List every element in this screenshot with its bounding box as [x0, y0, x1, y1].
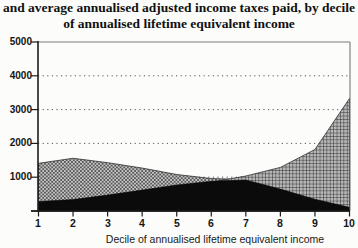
x-tick-label-3: 3 — [96, 217, 120, 229]
x-tick-label-4: 4 — [130, 217, 154, 229]
x-tick-label-2: 2 — [61, 217, 85, 229]
x-tick-label-8: 8 — [268, 217, 292, 229]
x-tick-label-10: 10 — [337, 217, 358, 229]
y-tick-label-4000: 4000 — [0, 70, 32, 81]
y-tick-label-5000: 5000 — [0, 36, 32, 47]
area-series — [39, 98, 350, 211]
x-tick-label-1: 1 — [26, 217, 50, 229]
chart-canvas — [0, 0, 358, 248]
y-tick-label-2000: 2000 — [0, 137, 32, 148]
chart-figure: and average annualised adjusted income t… — [0, 0, 358, 248]
x-tick-label-7: 7 — [234, 217, 258, 229]
x-axis-title: Decile of annualised lifetime equivalent… — [60, 233, 358, 245]
x-tick-label-9: 9 — [303, 217, 327, 229]
y-tick-label-1000: 1000 — [0, 171, 32, 182]
x-tick-label-6: 6 — [199, 217, 223, 229]
x-tick-label-5: 5 — [165, 217, 189, 229]
y-tick-label-3000: 3000 — [0, 104, 32, 115]
